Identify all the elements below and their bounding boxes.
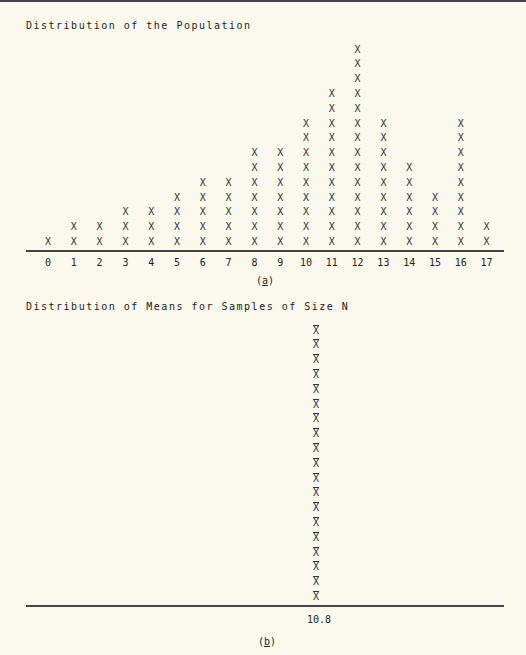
x-mark: X	[377, 148, 389, 158]
x-mark: X	[352, 89, 364, 99]
x-mark: X	[197, 178, 209, 188]
x-mark: X	[326, 237, 338, 247]
x-mark: X	[377, 222, 389, 232]
chart-a-title: Distribution of the Population	[26, 20, 252, 31]
x-mark: X	[223, 237, 235, 247]
x-mark: X	[403, 193, 415, 203]
x-tick-label: 3	[115, 257, 135, 268]
x-mark: X	[300, 163, 312, 173]
x-mark: X	[326, 133, 338, 143]
x-bar-mark: X	[310, 443, 322, 454]
x-tick-label: 16	[451, 257, 471, 268]
x-mark: X	[352, 222, 364, 232]
x-mark: X	[455, 237, 467, 247]
x-mark: X	[223, 222, 235, 232]
x-mark: X	[403, 207, 415, 217]
x-mark: X	[197, 193, 209, 203]
x-tick-label: 1	[64, 257, 84, 268]
chart-b-title: Distribution of Means for Samples of Siz…	[26, 301, 349, 312]
x-mark: X	[274, 237, 286, 247]
x-mark: X	[145, 207, 157, 217]
x-mark: X	[352, 207, 364, 217]
x-mark: X	[326, 207, 338, 217]
x-mark: X	[119, 237, 131, 247]
x-mark: X	[403, 222, 415, 232]
x-mark: X	[455, 119, 467, 129]
x-mark: X	[455, 222, 467, 232]
chart-a-caption: (a)	[256, 275, 274, 286]
x-tick-label: 15	[425, 257, 445, 268]
x-mark: X	[377, 178, 389, 188]
x-mark: X	[94, 237, 106, 247]
x-mark: X	[403, 178, 415, 188]
x-mark: X	[455, 133, 467, 143]
x-mark: X	[429, 193, 441, 203]
x-tick-label: 7	[219, 257, 239, 268]
x-mark: X	[248, 222, 260, 232]
x-mark: X	[326, 89, 338, 99]
x-tick-label: 8	[244, 257, 264, 268]
x-mark: X	[481, 237, 493, 247]
x-mark: X	[377, 133, 389, 143]
x-tick-label: 17	[477, 257, 497, 268]
x-mark: X	[171, 207, 183, 217]
x-mark: X	[455, 163, 467, 173]
x-tick-label: 6	[193, 257, 213, 268]
x-mark: X	[223, 207, 235, 217]
x-tick-label: 13	[373, 257, 393, 268]
x-mark: X	[429, 237, 441, 247]
x-mark: X	[68, 222, 80, 232]
x-mark: X	[94, 222, 106, 232]
x-mark: X	[455, 148, 467, 158]
x-mark: X	[145, 222, 157, 232]
x-bar-mark: X	[310, 517, 322, 528]
x-mark: X	[326, 222, 338, 232]
x-bar-mark: X	[310, 399, 322, 410]
x-mark: X	[403, 237, 415, 247]
x-mark: X	[300, 207, 312, 217]
x-mark: X	[171, 237, 183, 247]
x-bar-mark: X	[310, 458, 322, 469]
x-mark: X	[352, 178, 364, 188]
x-mark: X	[481, 222, 493, 232]
x-mark: X	[274, 178, 286, 188]
x-mark: X	[326, 178, 338, 188]
x-mark: X	[403, 163, 415, 173]
x-tick-label: 5	[167, 257, 187, 268]
x-tick-label: 2	[90, 257, 110, 268]
x-tick-label: 11	[322, 257, 342, 268]
x-mark: X	[326, 148, 338, 158]
x-mark: X	[326, 104, 338, 114]
x-mark: X	[145, 237, 157, 247]
x-mark: X	[455, 207, 467, 217]
x-mark: X	[429, 222, 441, 232]
top-border	[0, 0, 526, 2]
x-mark: X	[274, 207, 286, 217]
x-bar-mark: X	[310, 428, 322, 439]
chart-a-axis	[26, 250, 504, 252]
x-mark: X	[274, 193, 286, 203]
x-mark: X	[300, 178, 312, 188]
x-mark: X	[248, 148, 260, 158]
x-mark: X	[119, 207, 131, 217]
x-tick-label: 10	[296, 257, 316, 268]
x-bar-mark: X	[310, 325, 322, 336]
x-mark: X	[223, 178, 235, 188]
x-mark: X	[377, 193, 389, 203]
x-mark: X	[248, 207, 260, 217]
x-mark: X	[68, 237, 80, 247]
x-mark: X	[352, 163, 364, 173]
x-mark: X	[248, 178, 260, 188]
x-mark: X	[171, 222, 183, 232]
x-bar-mark: X	[310, 339, 322, 350]
x-bar-mark: X	[310, 547, 322, 558]
x-mark: X	[274, 163, 286, 173]
x-mark: X	[352, 119, 364, 129]
x-mark: X	[300, 222, 312, 232]
x-mark: X	[352, 148, 364, 158]
x-mark: X	[455, 178, 467, 188]
x-tick-label: 0	[38, 257, 58, 268]
x-mark: X	[377, 119, 389, 129]
x-mark: X	[248, 193, 260, 203]
x-mark: X	[42, 237, 54, 247]
